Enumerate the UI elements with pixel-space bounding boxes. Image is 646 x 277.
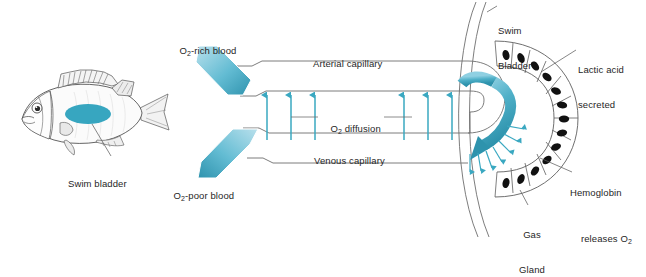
label-lactic-acid-secreted: Lactic acid secreted: [578, 41, 624, 122]
label-venous-capillary: Venous capillary: [314, 155, 385, 167]
fish-swim-bladder-organ: [65, 104, 111, 124]
fish-illustration: [22, 70, 169, 156]
hemoglobin-line2-pre: releases O: [581, 233, 628, 244]
label-o2-poor-blood: O2-poor blood: [168, 178, 234, 204]
o2-rich-pre: O: [179, 45, 187, 56]
hemoglobin-line2-sub: 2: [628, 238, 632, 245]
hemoglobin-line2: releases O2: [570, 222, 632, 259]
swim-bladder-line1: Swim: [498, 25, 531, 37]
diagram-svg: [0, 0, 646, 239]
o2-diffusion-pre: O: [330, 123, 338, 134]
gas-gland-line1: Gas: [508, 229, 556, 241]
figure-canvas: Swim bladder O2-rich blood O2-poor blood…: [0, 0, 646, 239]
label-fish-swim-bladder: Swim bladder: [68, 178, 127, 190]
o2-poor-outflow-arrow: [198, 129, 258, 178]
label-gas-gland: Gas Gland: [508, 206, 556, 277]
lactic-acid-line2: secreted: [578, 99, 624, 111]
gas-gland-line2: Gland: [508, 264, 556, 276]
o2-diffusion-post: diffusion: [342, 123, 381, 134]
o2-poor-pre: O: [173, 190, 181, 201]
swim-bladder-line2: Bladder: [498, 60, 531, 72]
label-hemoglobin-releases-o2: Hemoglobin releases O2: [570, 164, 632, 270]
label-o2-rich-blood: O2-rich blood: [174, 33, 236, 59]
o2-poor-post: -poor blood: [185, 190, 234, 201]
label-arterial-capillary: Arterial capillary: [313, 58, 382, 70]
o2-rich-post: -rich blood: [191, 45, 236, 56]
hemoglobin-line1: Hemoglobin: [570, 187, 632, 199]
lactic-acid-line1: Lactic acid: [578, 64, 624, 76]
label-swim-bladder-structure: Swim Bladder: [498, 2, 531, 83]
label-o2-diffusion: O2 diffusion: [325, 111, 381, 137]
